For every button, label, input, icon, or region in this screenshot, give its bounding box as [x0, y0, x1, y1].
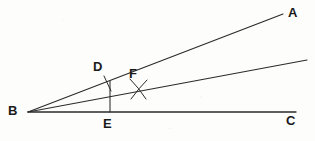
point-label-f: F [129, 67, 137, 80]
geometry-diagram: A B C D E F [0, 0, 315, 141]
geometry-canvas [0, 0, 315, 141]
construction-arc-1 [130, 79, 146, 99]
point-label-d: D [93, 60, 103, 73]
point-label-e: E [103, 117, 112, 130]
point-label-a: A [288, 6, 298, 19]
ray-bisector [28, 60, 307, 112]
point-label-c: C [286, 114, 296, 127]
point-label-b: B [8, 104, 18, 117]
ray-ba [28, 14, 283, 112]
